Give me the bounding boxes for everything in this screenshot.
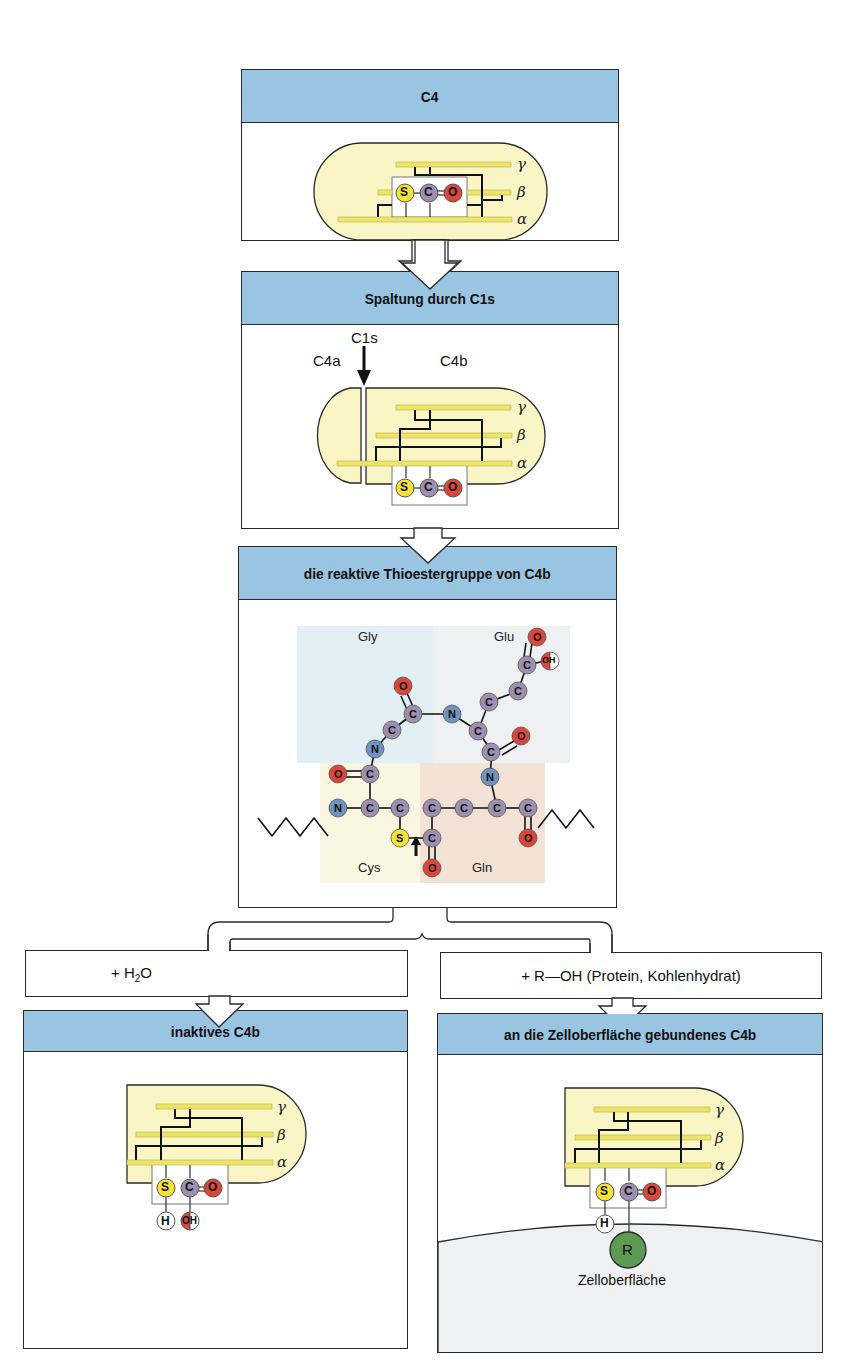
- r-group-label: R: [622, 1241, 633, 1258]
- panel-c4-title: C4: [421, 88, 439, 105]
- panel-bound: an die Zelloberfläche gebundenes C4b: [437, 1013, 823, 1353]
- atom-c: C: [474, 725, 482, 737]
- atom-n: N: [334, 802, 342, 814]
- atom-o: O: [428, 862, 437, 874]
- reaction-water: + H2O: [25, 950, 408, 997]
- atom-s: S: [400, 480, 408, 494]
- atom-c: C: [485, 696, 493, 708]
- residue-glu: Glu: [494, 629, 514, 644]
- atom-o: O: [647, 1184, 656, 1198]
- panel-inactive-title: inaktives C4b: [171, 1023, 260, 1040]
- water-prefix: + H: [111, 964, 135, 981]
- atom-oh: OH: [182, 1215, 197, 1226]
- atom-c: C: [624, 1184, 633, 1198]
- panel-c4-header: C4: [242, 70, 618, 123]
- atom-c: C: [424, 480, 433, 494]
- label-c1s: C1s: [351, 329, 378, 346]
- atom-o: O: [334, 768, 343, 780]
- atom-c: C: [487, 746, 495, 758]
- panel-thioester-title: die reaktive Thioestergruppe von C4b: [304, 565, 551, 582]
- label-c4b: C4b: [440, 352, 468, 369]
- reaction-roh: + R—OH (Protein, Kohlenhydrat): [440, 952, 822, 999]
- atom-c: C: [428, 832, 436, 844]
- atom-c: C: [396, 802, 404, 814]
- atom-o: O: [517, 730, 526, 742]
- panel-thioester: die reaktive Thioestergruppe von C4b: [238, 546, 617, 908]
- panel-bound-header: an die Zelloberfläche gebundenes C4b: [438, 1014, 822, 1055]
- atom-o: O: [448, 480, 457, 494]
- reaction-water-label: + H2O: [111, 964, 152, 984]
- cell-surface-label: Zelloberfläche: [578, 1272, 666, 1288]
- atom-c: C: [366, 802, 374, 814]
- atom-oh: OH: [542, 655, 556, 665]
- atom-c: C: [523, 659, 531, 671]
- atom-o: O: [524, 832, 533, 844]
- atom-o: O: [399, 680, 408, 692]
- label-c4a: C4a: [313, 352, 341, 369]
- atom-c: C: [388, 724, 396, 736]
- atom-o: O: [208, 1180, 217, 1194]
- atom-c: C: [428, 802, 436, 814]
- atom-s: S: [161, 1180, 169, 1194]
- atom-h: H: [161, 1214, 170, 1228]
- panel-cleavage-title: Spaltung durch C1s: [365, 290, 495, 307]
- reaction-roh-label: + R—OH (Protein, Kohlenhydrat): [521, 967, 741, 984]
- atom-c: C: [185, 1180, 194, 1194]
- panel-cleavage-header: Spaltung durch C1s: [242, 272, 618, 325]
- atom-c: C: [460, 802, 468, 814]
- residue-gln: Gln: [472, 860, 492, 875]
- atom-c: C: [409, 708, 417, 720]
- atom-n: N: [371, 743, 379, 755]
- atom-c: C: [514, 685, 522, 697]
- panel-inactive-header: inaktives C4b: [24, 1011, 407, 1052]
- atom-s: S: [600, 1184, 608, 1198]
- atom-s: S: [400, 185, 408, 199]
- atom-c: C: [493, 802, 501, 814]
- atom-c: C: [524, 802, 532, 814]
- atom-c: C: [366, 768, 374, 780]
- atom-h: H: [600, 1216, 609, 1230]
- residue-gly: Gly: [358, 629, 378, 644]
- atom-o: O: [448, 185, 457, 199]
- atom-c: C: [424, 185, 433, 199]
- panel-thioester-header: die reaktive Thioestergruppe von C4b: [239, 547, 616, 600]
- atom-n: N: [486, 771, 494, 783]
- atom-s: S: [396, 832, 403, 844]
- water-suffix: O: [140, 964, 152, 981]
- atom-o: O: [533, 631, 542, 643]
- panel-c4: C4: [241, 69, 619, 241]
- atom-n: N: [448, 708, 456, 720]
- residue-cys: Cys: [358, 860, 380, 875]
- panel-bound-title: an die Zelloberfläche gebundenes C4b: [504, 1026, 756, 1043]
